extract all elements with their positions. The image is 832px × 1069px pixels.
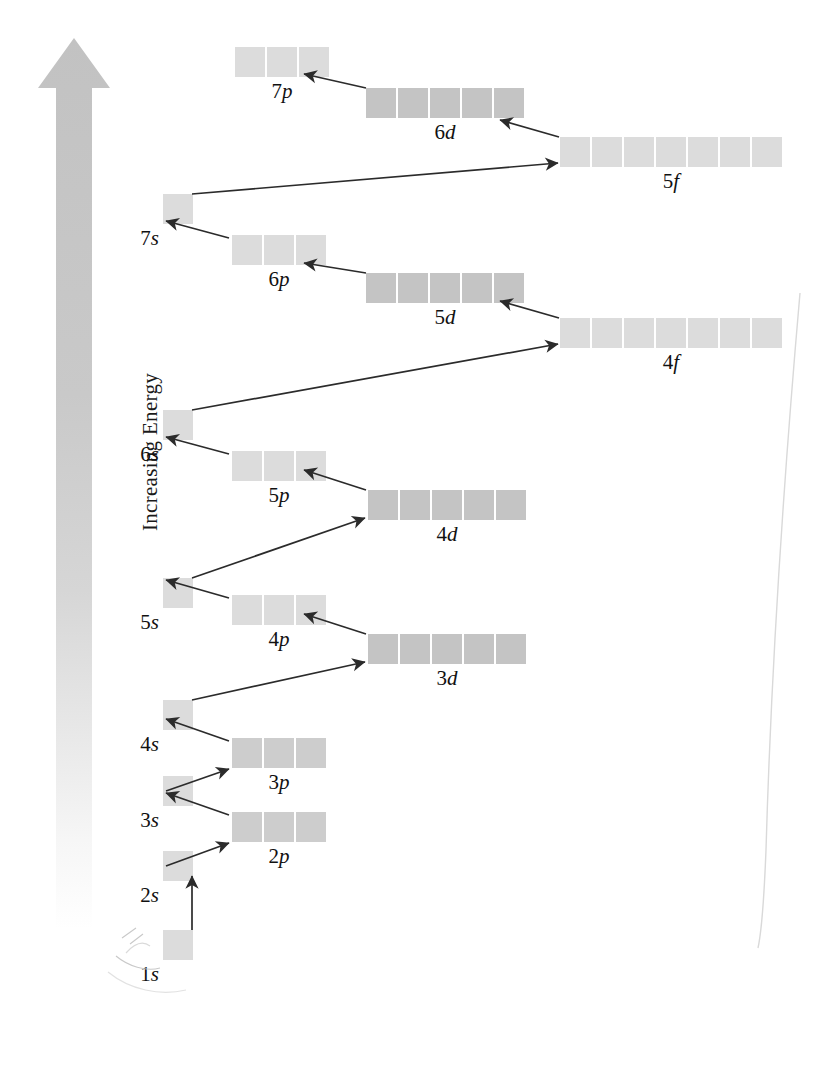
orbital-box: [398, 273, 428, 303]
orbital-box: [264, 812, 294, 842]
orbital-label-3d: 3d: [368, 665, 526, 691]
orbital-boxes-6p: [232, 235, 326, 265]
orbital-group-4p: 4p: [232, 595, 326, 625]
orbital-box: [235, 47, 265, 77]
orbital-box: [296, 235, 326, 265]
orbital-box: [624, 318, 654, 348]
orbital-label-7s: 7s: [129, 225, 159, 251]
orbital-box: [264, 235, 294, 265]
arrow-5s-to-4d: [192, 518, 365, 578]
orbital-box: [592, 137, 622, 167]
orbital-box: [560, 137, 590, 167]
orbital-label-4s: 4s: [129, 731, 159, 757]
orbital-box: [264, 451, 294, 481]
orbital-label-4f: 4f: [560, 349, 782, 375]
orbital-group-5d: 5d: [366, 273, 524, 303]
orbital-box: [462, 273, 492, 303]
orbital-box: [400, 634, 430, 664]
orbital-box: [432, 490, 462, 520]
orbital-box: [366, 88, 396, 118]
orbital-boxes-7p: [235, 47, 329, 77]
orbital-box: [432, 634, 462, 664]
orbital-label-7p: 7p: [235, 78, 329, 104]
orbital-box: [163, 930, 193, 960]
orbital-group-6s: 6s: [163, 410, 193, 440]
orbital-boxes-4f: [560, 318, 782, 348]
orbital-box: [464, 490, 494, 520]
orbital-group-7s: 7s: [163, 194, 193, 224]
orbital-box: [752, 137, 782, 167]
orbital-box: [656, 137, 686, 167]
orbital-box: [656, 318, 686, 348]
arrow-6s-to-4f: [192, 344, 558, 410]
orbital-box: [688, 137, 718, 167]
orbital-box: [163, 194, 193, 224]
orbital-box: [624, 137, 654, 167]
orbital-box: [232, 812, 262, 842]
orbital-boxes-3s: [163, 776, 193, 806]
orbital-label-5p: 5p: [232, 482, 326, 508]
orbital-box: [163, 776, 193, 806]
orbital-box: [163, 851, 193, 881]
arrow-7s-to-5f: [192, 163, 558, 194]
increasing-energy-arrow-icon: [32, 34, 116, 934]
orbital-group-6d: 6d: [366, 88, 524, 118]
orbital-boxes-2s: [163, 851, 193, 881]
orbital-label-5s: 5s: [129, 609, 159, 635]
orbital-box: [496, 634, 526, 664]
orbital-boxes-4p: [232, 595, 326, 625]
orbital-group-2p: 2p: [232, 812, 326, 842]
orbital-energy-diagram: Increasing Energy 7p6d5f7s6p5d4f6s5p4d5s…: [0, 0, 832, 1069]
orbital-group-3p: 3p: [232, 738, 326, 768]
orbital-group-5s: 5s: [163, 578, 193, 608]
orbital-box: [494, 273, 524, 303]
orbital-boxes-5f: [560, 137, 782, 167]
orbital-box: [296, 812, 326, 842]
orbital-box: [592, 318, 622, 348]
orbital-box: [400, 490, 430, 520]
orbital-box: [264, 738, 294, 768]
orbital-box: [163, 700, 193, 730]
orbital-boxes-7s: [163, 194, 193, 224]
orbital-boxes-4s: [163, 700, 193, 730]
orbital-label-6s: 6s: [129, 441, 159, 467]
orbital-box: [688, 318, 718, 348]
orbital-boxes-4d: [368, 490, 526, 520]
orbital-boxes-6d: [366, 88, 524, 118]
orbital-label-1s: 1s: [129, 961, 159, 987]
orbital-box: [430, 273, 460, 303]
orbital-box: [232, 738, 262, 768]
orbital-box: [232, 235, 262, 265]
orbital-box: [496, 490, 526, 520]
orbital-label-6d: 6d: [366, 119, 524, 145]
orbital-box: [368, 490, 398, 520]
orbital-box: [366, 273, 396, 303]
arrow-4s-to-3d: [192, 662, 365, 700]
orbital-label-2p: 2p: [232, 843, 326, 869]
orbital-box: [560, 318, 590, 348]
orbital-group-4d: 4d: [368, 490, 526, 520]
orbital-box: [464, 634, 494, 664]
orbital-box: [368, 634, 398, 664]
orbital-box: [232, 595, 262, 625]
orbital-boxes-2p: [232, 812, 326, 842]
orbital-group-6p: 6p: [232, 235, 326, 265]
orbital-label-5f: 5f: [560, 168, 782, 194]
orbital-boxes-3p: [232, 738, 326, 768]
orbital-label-2s: 2s: [129, 882, 159, 908]
orbital-box: [430, 88, 460, 118]
orbital-boxes-3d: [368, 634, 526, 664]
orbital-box: [299, 47, 329, 77]
orbital-group-5f: 5f: [560, 137, 782, 167]
orbital-label-6p: 6p: [232, 266, 326, 292]
orbital-group-5p: 5p: [232, 451, 326, 481]
orbital-box: [267, 47, 297, 77]
orbital-box: [462, 88, 492, 118]
orbital-box: [232, 451, 262, 481]
orbital-boxes-6s: [163, 410, 193, 440]
orbital-box: [720, 137, 750, 167]
orbital-group-4f: 4f: [560, 318, 782, 348]
orbital-box: [296, 451, 326, 481]
orbital-box: [296, 595, 326, 625]
orbital-group-4s: 4s: [163, 700, 193, 730]
